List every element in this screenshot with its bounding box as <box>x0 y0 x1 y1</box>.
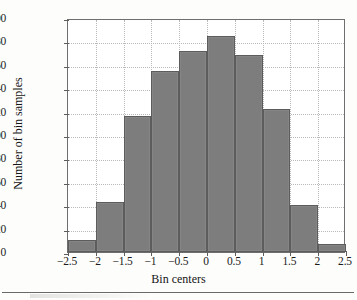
tick-marks <box>68 20 344 252</box>
y-tick-label: 180 <box>0 36 6 47</box>
y-tick-mark <box>64 160 69 161</box>
y-tick-label: 40 <box>0 200 6 211</box>
page-divider-rule <box>2 292 354 293</box>
x-tick-label: 2.5 <box>325 256 357 267</box>
y-tick-mark <box>64 67 69 68</box>
y-tick-label: 0 <box>0 247 6 258</box>
y-tick-mark <box>64 20 69 21</box>
y-tick-mark <box>64 90 69 91</box>
y-tick-mark <box>64 207 69 208</box>
y-axis-title: Number of bin samples <box>11 44 26 224</box>
scan-artifact <box>30 294 150 298</box>
y-tick-mark <box>64 43 69 44</box>
y-tick-mark <box>64 184 69 185</box>
y-tick-label: 120 <box>0 107 6 118</box>
histogram-figure: 020406080100120140160180200−2.5−2−1.5−1−… <box>0 0 357 300</box>
y-tick-label: 80 <box>0 153 6 164</box>
y-tick-label: 160 <box>0 60 6 71</box>
y-tick-mark <box>64 114 69 115</box>
x-axis-title: Bin centers <box>0 272 357 287</box>
y-tick-label: 100 <box>0 130 6 141</box>
y-tick-label: 20 <box>0 224 6 235</box>
plot-area <box>67 19 345 253</box>
y-tick-label: 140 <box>0 83 6 94</box>
y-tick-label: 200 <box>0 13 6 24</box>
y-tick-label: 60 <box>0 177 6 188</box>
y-tick-mark <box>64 137 69 138</box>
y-tick-mark <box>64 231 69 232</box>
